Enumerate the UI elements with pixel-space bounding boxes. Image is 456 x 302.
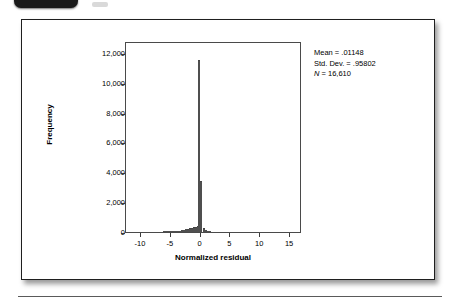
- x-axis-tick-label: -5: [166, 239, 173, 248]
- stat-symbol: N: [314, 69, 322, 78]
- header-smudge-mark: [92, 2, 108, 7]
- histogram-bar: [209, 231, 211, 232]
- statistics-annotation: Mean = .01148Std. Dev. = .95802N = 16,61…: [314, 48, 376, 80]
- y-axis-tick-labels: 02,0004,0006,0008,00010,00012,000: [77, 42, 125, 233]
- x-axis-tick-label: 10: [255, 239, 263, 248]
- x-axis-tick-mark: [289, 233, 290, 237]
- x-axis-tick-mark: [200, 233, 201, 237]
- x-axis-tick-mark: [140, 233, 141, 237]
- x-axis-title: Normalized residual: [125, 253, 301, 262]
- footer-divider: [18, 296, 442, 297]
- plot-frame: [125, 42, 301, 233]
- histogram-bars: [126, 43, 300, 232]
- figure-card: Frequency 02,0004,0006,0008,00010,00012,…: [21, 19, 435, 280]
- x-axis-tick-mark: [170, 233, 171, 237]
- stat-std-dev: Std. Dev. = .95802: [314, 59, 376, 70]
- x-axis-tick-mark: [229, 233, 230, 237]
- stat-mean: Mean = .01148: [314, 48, 376, 59]
- x-axis-tick-label: -10: [134, 239, 145, 248]
- x-axis-ticks: -10-5051015: [125, 233, 301, 255]
- x-axis-tick-label: 5: [227, 239, 231, 248]
- figure-number-badge: [14, 0, 78, 8]
- y-axis-title: Frequency: [45, 85, 54, 165]
- histogram-bar: [200, 181, 202, 232]
- x-axis-tick-label: 15: [285, 239, 293, 248]
- stat-sample-size: N = 16,610: [314, 69, 376, 80]
- x-axis-tick-label: 0: [197, 239, 201, 248]
- x-axis-tick-mark: [259, 233, 260, 237]
- histogram-chart: Frequency 02,0004,0006,0008,00010,00012,…: [22, 20, 436, 281]
